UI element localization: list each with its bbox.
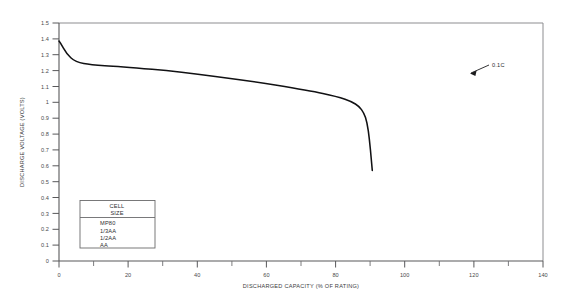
x-tick-label: 60: [263, 272, 269, 278]
y-tick-label: 0.8: [41, 131, 49, 137]
discharge-curve-chart: 1.5 1.4 1.3 1.2 1.1 1 0.9 0.8 0.7 0.6 0.…: [0, 0, 574, 305]
legend-item-0: MP80: [100, 220, 115, 226]
y-tick-label: 1.4: [41, 36, 49, 42]
legend-item-1: 1/3AA: [100, 228, 116, 234]
x-axis-ticks: 0 20 40 60 80 100 120 140: [57, 261, 547, 278]
y-axis-ticks: 1.5 1.4 1.3 1.2 1.1 1 0.9 0.8 0.7 0.6 0.…: [41, 20, 59, 264]
x-tick-label: 80: [332, 272, 338, 278]
x-tick-label: 140: [538, 272, 548, 278]
legend-item-2: 1/2AA: [100, 235, 116, 241]
y-tick-label: 0: [46, 258, 49, 264]
x-tick-label: 0: [57, 272, 60, 278]
legend-box: CELL SIZE MP80 1/3AA 1/2AA AA: [80, 201, 155, 249]
y-tick-label: 1.3: [41, 52, 49, 58]
y-tick-label: 0.3: [41, 211, 49, 217]
legend-header-line1: CELL: [110, 203, 125, 209]
annotation-arrowhead-icon: [470, 71, 477, 76]
y-tick-label: 0.2: [41, 226, 49, 232]
chart-page: 1.5 1.4 1.3 1.2 1.1 1 0.9 0.8 0.7 0.6 0.…: [0, 0, 574, 305]
y-tick-label: 1: [46, 99, 49, 105]
y-tick-label: 0.9: [41, 115, 49, 121]
legend-header-line2: SIZE: [110, 210, 123, 216]
annotation-label: 0.1C: [492, 62, 505, 68]
y-tick-label: 1.5: [41, 20, 49, 26]
y-tick-label: 0.1: [41, 242, 49, 248]
y-tick-label: 0.4: [41, 195, 49, 201]
x-tick-label: 20: [125, 272, 131, 278]
x-axis-title: DISCHARGED CAPACITY (% OF RATING): [243, 283, 359, 289]
annotation-leader-line: [471, 65, 489, 73]
y-axis-title: DISCHARGE VOLTAGE (VOLTS): [19, 97, 25, 187]
y-tick-label: 0.6: [41, 163, 49, 169]
annotation-0p1C: 0.1C: [470, 62, 505, 77]
y-tick-label: 0.5: [41, 179, 49, 185]
y-tick-label: 0.7: [41, 147, 49, 153]
y-tick-label: 1.1: [41, 84, 49, 90]
x-tick-label: 120: [469, 272, 479, 278]
x-tick-label: 100: [400, 272, 410, 278]
legend-item-3: AA: [100, 242, 108, 248]
x-tick-label: 40: [194, 272, 200, 278]
y-tick-label: 1.2: [41, 68, 49, 74]
discharge-curve-0p1C: [59, 41, 372, 171]
